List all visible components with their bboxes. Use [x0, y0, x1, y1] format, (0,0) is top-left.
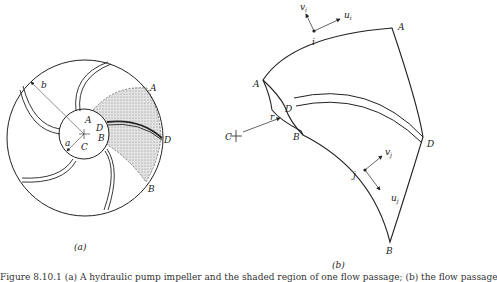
label-A-outer: A — [149, 83, 157, 93]
panel-b-label: (b) — [332, 260, 345, 270]
label-A-top: A — [397, 22, 405, 32]
panel-a-impeller: b a A D B C A D B (a) — [7, 60, 171, 252]
vj-vector — [365, 156, 382, 170]
passage-outline — [263, 28, 423, 242]
label-B-hub: B — [97, 133, 105, 143]
label-B-left: B — [292, 132, 300, 142]
label-D-hub: D — [95, 123, 103, 133]
label-D-outer: D — [163, 135, 171, 145]
vi-vector — [306, 14, 314, 31]
label-vi: vi — [300, 2, 307, 13]
label-vj: vj — [385, 147, 392, 159]
label-r: r — [270, 112, 275, 122]
label-a: a — [65, 138, 70, 148]
panel-a-label: (a) — [74, 242, 87, 252]
label-A-left: A — [252, 79, 260, 89]
uj-vector — [365, 170, 380, 190]
label-D-left: D — [284, 104, 292, 114]
label-uj: uj — [391, 193, 399, 205]
label-B-outer: B — [147, 184, 155, 194]
label-C: C — [81, 142, 88, 152]
r-vector — [243, 118, 280, 132]
figure-caption: Figure 8.10.1 (a) A hydraulic pump impel… — [0, 272, 440, 282]
label-D-right: D — [426, 139, 434, 149]
label-C-b: C — [225, 132, 232, 142]
label-b: b — [41, 80, 47, 90]
ui-vector — [314, 19, 340, 31]
label-ui: ui — [344, 10, 352, 21]
label-B-bottom: B — [385, 246, 393, 256]
panel-b-passage: C r A A D B D B i j vi ui vj uj (b) — [225, 2, 434, 270]
label-i: i — [312, 37, 315, 47]
label-A-hub: A — [84, 115, 92, 125]
